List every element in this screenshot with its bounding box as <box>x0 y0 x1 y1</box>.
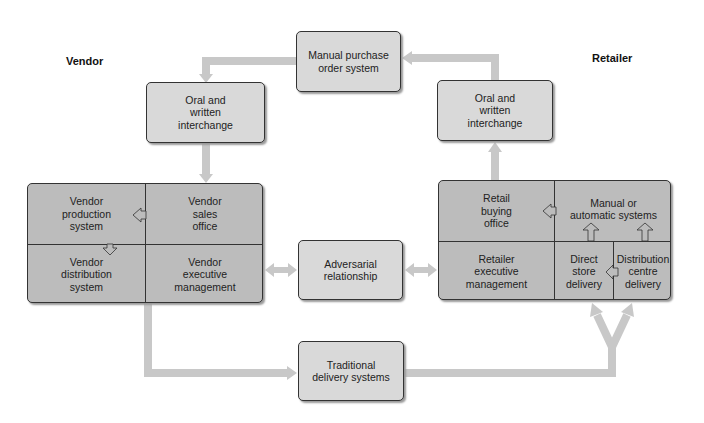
oral-interchange-vendor-box: Oral and written interchange <box>146 82 265 143</box>
vendor-label: Vendor <box>66 55 103 67</box>
traditional-delivery-box: Traditional delivery systems <box>298 341 404 401</box>
hollow-arrow-up-icon <box>583 223 599 241</box>
traditional-delivery-text: Traditional delivery systems <box>312 359 390 384</box>
vendor-block: Vendor production system Vendor sales of… <box>27 183 263 303</box>
manual-purchase-order-text: Manual purchase order system <box>308 49 389 74</box>
vendor-internal-arrows <box>28 184 263 303</box>
oral-interchange-retailer-box: Oral and written interchange <box>437 80 553 141</box>
adversarial-relationship-box: Adversarial relationship <box>298 240 403 300</box>
retailer-block: Retail buying office Manual or automatic… <box>438 180 671 300</box>
adversarial-relationship-text: Adversarial relationship <box>324 258 378 283</box>
manual-purchase-order-box: Manual purchase order system <box>296 31 401 92</box>
retailer-label: Retailer <box>592 52 632 64</box>
arrow-po-to-left-oral <box>206 61 296 74</box>
arrow-vendor-to-traditional <box>148 303 287 373</box>
hollow-arrow-left-icon <box>543 204 556 218</box>
arrow-traditional-to-y <box>404 345 612 373</box>
hollow-arrow-left-icon <box>133 208 146 222</box>
hollow-arrow-left-icon <box>606 265 618 279</box>
arrowhead-up-right-oral <box>488 142 502 152</box>
hollow-arrow-down-icon <box>103 244 117 255</box>
arrow-y-right-branch <box>612 315 627 347</box>
hollow-arrow-up-icon <box>637 223 653 241</box>
arrowhead-right-traditional <box>287 366 297 380</box>
retailer-internal-arrows <box>439 181 671 300</box>
oral-interchange-vendor-text: Oral and written interchange <box>178 94 233 132</box>
double-arrow-adversarial-retailer <box>405 263 437 277</box>
arrowhead-left-po <box>402 51 412 65</box>
arrow-right-oral-to-po <box>412 58 495 80</box>
arrowhead-down-vendor <box>199 174 213 183</box>
oral-interchange-retailer-text: Oral and written interchange <box>468 92 523 130</box>
double-arrow-vendor-adversarial <box>265 263 297 277</box>
arrow-y-left-branch <box>597 315 612 347</box>
